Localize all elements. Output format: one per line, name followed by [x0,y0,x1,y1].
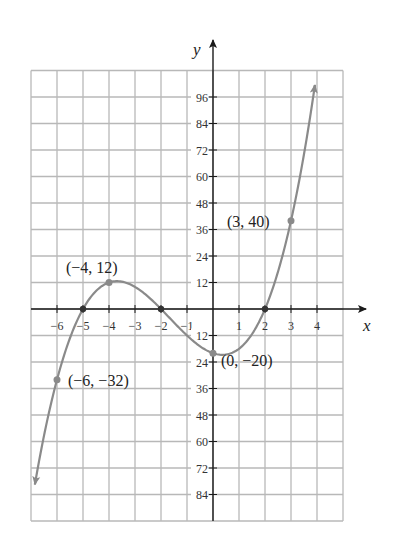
curve-arrow-down [35,481,36,484]
labeled-point [54,376,61,383]
x-tick-label: 2 [262,319,268,333]
x-tick-label: 1 [236,319,242,333]
point-label: (−4, 12) [66,259,118,277]
x-tick-label: −4 [103,319,116,333]
point-label: (0, −20) [221,352,273,370]
labeled-point [288,217,295,224]
point-label: (3, 40) [227,213,270,231]
y-tick-label: 60 [196,435,208,449]
y-tick-label: 96 [196,91,208,105]
y-tick-label: 24 [196,250,208,264]
grid-lines [31,71,343,522]
y-tick-label: 48 [196,409,208,423]
y-axis-label: y [191,40,201,59]
x-intercept-point [80,306,86,312]
labeled-points: (−4, 12)(3, 40)(−6, −32)(0, −20) [54,213,295,390]
x-tick-label: −2 [155,319,168,333]
y-tick-label: 12 [196,329,208,343]
x-tick-label: −6 [51,319,64,333]
y-tick-label: 84 [196,488,208,502]
y-tick-label: 24 [196,356,208,370]
x-intercept-point [262,306,268,312]
x-tick-label: 4 [314,319,320,333]
cubic-curve [35,85,315,484]
function-curve [35,85,315,484]
point-label: (−6, −32) [68,372,129,390]
y-tick-label: 72 [196,144,208,158]
y-tick-label: 84 [196,117,208,131]
x-tick-label: −3 [129,319,142,333]
x-tick-label: −5 [77,319,90,333]
labeled-point [106,279,113,286]
y-tick-label: 36 [196,223,208,237]
y-tick-label: 36 [196,382,208,396]
x-axis-label: x [362,316,371,335]
y-tick-label: 48 [196,197,208,211]
x-tick-label: 3 [288,319,294,333]
axis-labels: x y [191,40,371,335]
y-tick-label: 12 [196,276,208,290]
curve-arrow-up [314,85,315,89]
x-intercept-point [158,306,164,312]
y-tick-label: 60 [196,170,208,184]
labeled-point [210,350,217,357]
cubic-function-graph: −6−5−4−3−2−11234968472604836241212243648… [0,0,398,544]
y-tick-label: 72 [196,462,208,476]
